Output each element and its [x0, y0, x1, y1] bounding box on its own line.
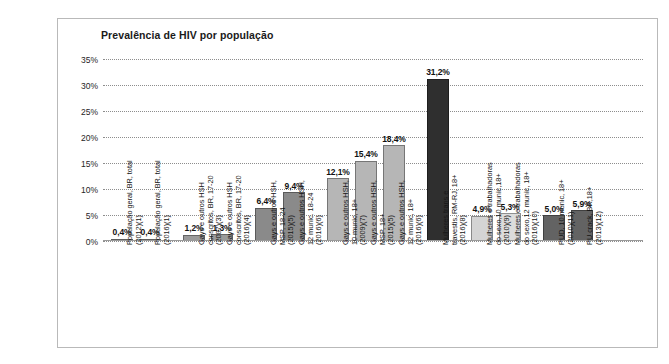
chart-title: Prevalência de HIV por população	[101, 29, 273, 41]
x-axis-category-label: Mulheres e trabalhadoras do sexo,12 muni…	[514, 162, 540, 245]
x-axis-category-label: Mulheres e trabalhadoras do sexo,10 muni…	[486, 162, 512, 245]
x-axis-category-label: Gays e outros HSH, 12 munic, 18+ (2016)(…	[398, 180, 424, 245]
chart-figure: Prevalência de HIV por população 35%30%2…	[57, 18, 658, 348]
x-axis-category-label: Gays e outros HSH, 12 munic. 18-24 (2016…	[298, 180, 324, 245]
y-axis-tick-label: 5%	[86, 211, 98, 221]
bar-value-label: 18,4%	[382, 134, 406, 144]
figure-caption	[8, 356, 408, 363]
y-axis-tick-label: 10%	[81, 185, 98, 195]
x-axis-category-label: Gays e outros HSH conscritos, BR, 17-20 …	[226, 175, 252, 245]
y-axis-tick-label: 20%	[81, 133, 98, 143]
x-axis-category-label: Gays e outros HSH, MSP, 18+ (2015)(5)	[370, 180, 396, 245]
y-axis-tick-label: 15%	[81, 159, 98, 169]
y-axis-tick-label: 35%	[81, 55, 98, 65]
x-axis-category-label: Gays e outros HSH, MSP, 18-24 (2015)(5)	[270, 180, 296, 245]
y-axis-tick-label: 30%	[81, 81, 98, 91]
x-axis-category-label: PU crack, BR,18+ (2013)(12)	[586, 187, 603, 245]
x-axis-category-label: Gays e outros HSH conscritos, BR, 17-20 …	[198, 175, 224, 245]
x-axis-category-label: População geral, BR, total (2012)(1)	[126, 160, 143, 245]
x-axis-category-label: Gays e outros HSH, 10 munic, 18+ (2009)(…	[342, 180, 368, 245]
y-axis-tick-label: 0%	[86, 237, 98, 247]
x-axis-category-label: População geral, BR, total (2016)(1)	[154, 160, 171, 245]
bar-value-label: 15,4%	[354, 149, 378, 159]
x-axis-category-label: PUD, 10 munic, 18+ (2010)(11)	[558, 180, 575, 245]
bar-value-label: 12,1%	[326, 167, 350, 177]
bar-value-label: 31,2%	[426, 67, 450, 77]
y-axis-tick-label: 25%	[81, 107, 98, 117]
x-axis-category-label: Mulheres trans e travestis, RM-RJ, 18+ (…	[442, 175, 468, 245]
